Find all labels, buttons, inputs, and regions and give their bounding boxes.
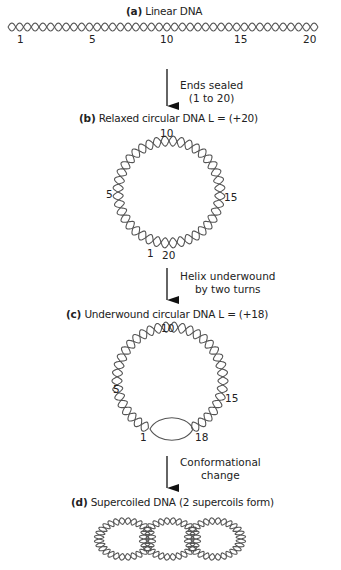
linear-dna-helix [8,23,318,31]
panel-d-label: Supercoiled DNA (2 supercoils form) [91,496,274,508]
step-3-line2: change [180,469,261,482]
linear-label-10: 10 [160,33,173,45]
panel-d-letter: (d) [71,496,88,508]
relaxed-label-20: 20 [162,249,175,261]
underwound-circular-dna [112,322,228,440]
step-3-line1: Conformational [180,456,261,469]
step-2-line1: Helix underwound [180,270,275,283]
step-3-note: Conformational change [180,456,261,482]
relaxed-label-15: 15 [224,191,237,203]
underwound-label-5: 5 [113,383,120,395]
linear-label-20: 20 [303,33,316,45]
step-1-note: Ends sealed (1 to 20) [180,79,243,105]
panel-a-letter: (a) [126,5,142,17]
underwound-label-15: 15 [225,392,238,404]
relaxed-label-1: 1 [147,247,154,259]
underwound-label-10: 10 [161,322,174,334]
panel-b-label: Relaxed circular DNA L = (+20) [99,112,258,124]
linear-label-1: 1 [17,33,24,45]
panel-a-title: (a) Linear DNA [126,5,202,17]
panel-c-title: (c) Underwound circular DNA L = (+18) [66,308,268,320]
relaxed-label-5: 5 [106,188,113,200]
dna-diagram-graphics [0,0,341,570]
step-2-line2: by two turns [180,283,275,296]
panel-b-letter: (b) [79,112,96,124]
panel-a-label: Linear DNA [145,5,202,17]
panel-d-title: (d) Supercoiled DNA (2 supercoils form) [71,496,274,508]
relaxed-circular-dna [113,136,225,248]
underwound-label-18: 18 [195,431,208,443]
relaxed-label-10: 10 [160,127,173,139]
step-1-line2: (1 to 20) [180,92,243,105]
step-2-note: Helix underwound by two turns [180,270,275,296]
panel-b-title: (b) Relaxed circular DNA L = (+20) [79,112,258,124]
linear-label-15: 15 [234,33,247,45]
underwound-label-1: 1 [140,431,147,443]
panel-c-label: Underwound circular DNA L = (+18) [84,308,268,320]
supercoiled-dna [94,518,245,560]
step-1-line1: Ends sealed [180,79,243,92]
linear-label-5: 5 [89,33,96,45]
panel-c-letter: (c) [66,308,81,320]
